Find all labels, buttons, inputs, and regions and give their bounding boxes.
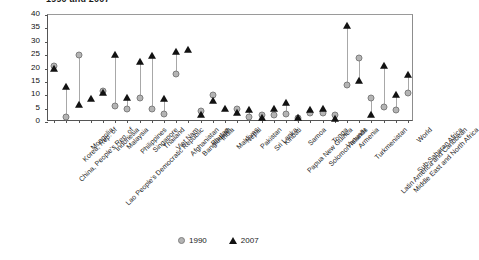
data-point-2007 bbox=[355, 76, 363, 83]
x-tick-mark bbox=[237, 120, 238, 123]
x-tick-mark bbox=[359, 120, 360, 123]
legend-triangle-icon bbox=[229, 237, 237, 244]
x-tick-mark bbox=[310, 120, 311, 123]
x-tick-label: Kiribati bbox=[282, 126, 302, 146]
x-tick-mark bbox=[103, 120, 104, 123]
data-point-1990 bbox=[124, 105, 131, 112]
x-tick-mark bbox=[201, 120, 202, 123]
x-tick-label: Tonga bbox=[330, 126, 348, 144]
legend-item[interactable]: 1990 bbox=[178, 236, 207, 245]
data-point-2007 bbox=[258, 114, 266, 121]
x-tick-label: Indonesia bbox=[114, 126, 140, 152]
x-tick-label: Sri Lanka bbox=[272, 126, 298, 152]
data-point-2007 bbox=[172, 48, 180, 55]
connector-line bbox=[140, 62, 141, 98]
x-tick-mark bbox=[79, 120, 80, 123]
x-tick-label: India bbox=[219, 126, 235, 142]
data-point-2007 bbox=[221, 104, 229, 111]
y-tick-label: 5 bbox=[24, 104, 40, 112]
data-point-1990 bbox=[173, 70, 180, 77]
y-tick-label: 10 bbox=[24, 90, 40, 98]
x-tick-mark bbox=[91, 120, 92, 123]
x-tick-label: Latin America and Caribbean bbox=[400, 126, 469, 195]
chart-legend: 19902007 bbox=[178, 236, 259, 245]
legend-label: 2007 bbox=[241, 236, 259, 245]
data-point-2007 bbox=[111, 51, 119, 58]
x-tick-mark bbox=[225, 120, 226, 123]
data-point-2007 bbox=[184, 46, 192, 53]
data-point-1990 bbox=[63, 113, 70, 120]
x-tick-mark bbox=[127, 120, 128, 123]
data-point-2007 bbox=[270, 104, 278, 111]
data-point-2007 bbox=[282, 99, 290, 106]
y-tick-mark bbox=[45, 95, 48, 96]
x-tick-mark bbox=[396, 120, 397, 123]
x-tick-label: Malaysia bbox=[125, 126, 149, 150]
x-tick-mark bbox=[66, 120, 67, 123]
x-tick-label: Korea, Rep. of bbox=[82, 126, 119, 163]
x-tick-label: Nepal bbox=[244, 126, 262, 144]
data-point-1990 bbox=[75, 52, 82, 59]
legend-item[interactable]: 2007 bbox=[229, 236, 259, 245]
x-tick-label: Maldives bbox=[235, 126, 259, 150]
data-point-1990 bbox=[270, 112, 277, 119]
data-point-1990 bbox=[160, 110, 167, 117]
data-point-1990 bbox=[380, 104, 387, 111]
x-tick-label: Solomon Islands bbox=[327, 126, 369, 168]
y-tick-mark bbox=[45, 15, 48, 16]
x-tick-mark bbox=[371, 120, 372, 123]
data-point-2007 bbox=[99, 88, 107, 95]
data-point-2007 bbox=[331, 115, 339, 122]
y-tick-label: 0 bbox=[24, 117, 40, 125]
data-point-1990 bbox=[343, 81, 350, 88]
y-tick-label: 15 bbox=[24, 77, 40, 85]
x-tick-mark bbox=[188, 120, 189, 123]
x-tick-label: Afghanistan bbox=[189, 126, 220, 157]
data-point-2007 bbox=[319, 104, 327, 111]
legend-label: 1990 bbox=[189, 236, 207, 245]
x-tick-mark bbox=[384, 120, 385, 123]
x-tick-label: Sub-Saharan Africa bbox=[415, 126, 463, 174]
legend-circle-icon bbox=[178, 237, 185, 244]
data-point-2007 bbox=[294, 114, 302, 121]
data-point-2007 bbox=[136, 58, 144, 65]
x-tick-mark bbox=[347, 120, 348, 123]
connector-line bbox=[384, 66, 385, 107]
data-point-2007 bbox=[367, 111, 375, 118]
data-point-2007 bbox=[87, 95, 95, 102]
y-tick-label: 40 bbox=[24, 10, 40, 18]
data-point-1990 bbox=[404, 89, 411, 96]
x-tick-mark bbox=[164, 120, 165, 123]
connector-line bbox=[152, 56, 153, 108]
x-tick-mark bbox=[408, 120, 409, 123]
x-tick-label: Papua New Guinea bbox=[306, 126, 354, 174]
y-tick-label: 30 bbox=[24, 37, 40, 45]
x-tick-label: Viet Nam bbox=[174, 126, 199, 151]
x-tick-label: Mongolia bbox=[89, 126, 114, 151]
x-tick-label: Middle East and North Africa bbox=[411, 126, 479, 194]
data-point-2007 bbox=[404, 71, 412, 78]
data-point-1990 bbox=[282, 110, 289, 117]
x-tick-mark bbox=[140, 120, 141, 123]
data-point-2007 bbox=[62, 83, 70, 90]
data-point-2007 bbox=[123, 94, 131, 101]
x-tick-mark bbox=[323, 120, 324, 123]
data-point-2007 bbox=[197, 111, 205, 118]
data-point-2007 bbox=[392, 91, 400, 98]
x-tick-label: China, People's Rep. of bbox=[78, 126, 135, 183]
x-tick-label: Samoa bbox=[307, 126, 328, 147]
x-tick-mark bbox=[213, 120, 214, 123]
y-tick-label: 35 bbox=[24, 23, 40, 31]
x-tick-label: World bbox=[415, 126, 433, 144]
x-tick-label: Vanuatu bbox=[344, 126, 367, 149]
y-tick-label: 20 bbox=[24, 64, 40, 72]
x-tick-mark bbox=[176, 120, 177, 123]
data-point-1990 bbox=[112, 102, 119, 109]
data-point-2007 bbox=[148, 52, 156, 59]
data-point-1990 bbox=[356, 54, 363, 61]
connector-line bbox=[347, 26, 348, 85]
x-tick-mark bbox=[286, 120, 287, 123]
data-point-1990 bbox=[368, 94, 375, 101]
data-point-2007 bbox=[245, 106, 253, 113]
